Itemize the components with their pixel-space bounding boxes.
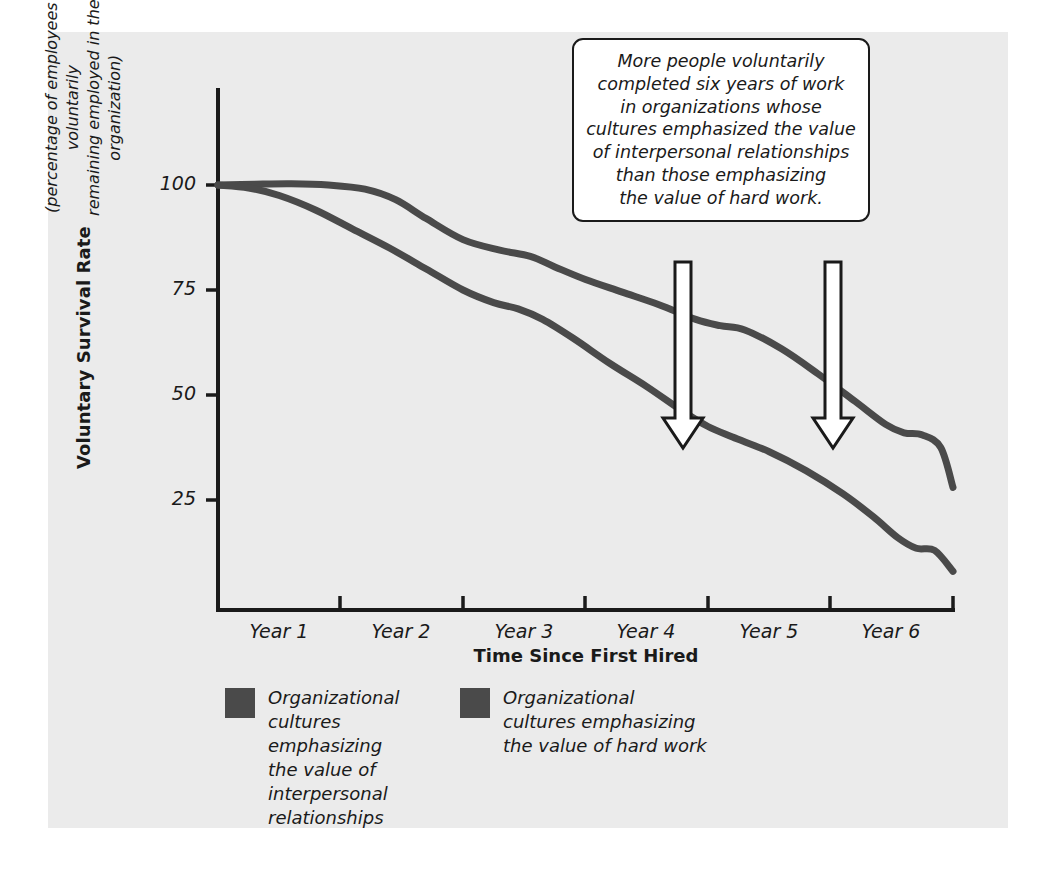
x-tick-label-year-4: Year 4 — [586, 620, 706, 642]
legend-swatch-hardwork — [460, 688, 490, 718]
legend-item-interpersonal: Organizational cultures emphasizing the … — [225, 686, 455, 830]
callout-arrow-left — [663, 262, 703, 448]
callout-arrow-right — [813, 262, 853, 448]
x-tick-label-year-6: Year 6 — [831, 620, 951, 642]
x-axis-title: Time Since First Hired — [386, 645, 786, 666]
callout-note: More people voluntarily completed six ye… — [572, 38, 870, 222]
y-tick-label-100: 100 — [136, 172, 196, 194]
callout-arrow-group — [663, 262, 853, 448]
series-line-hardwork — [218, 185, 953, 571]
legend-item-hardwork: Organizational cultures emphasizing the … — [460, 686, 710, 758]
y-tick-label-25: 25 — [136, 487, 196, 509]
x-tick-label-year-5: Year 5 — [709, 620, 829, 642]
x-tick-label-year-2: Year 2 — [341, 620, 461, 642]
y-tick-label-75: 75 — [136, 277, 196, 299]
series-line-interpersonal — [218, 184, 953, 488]
x-tick-label-year-3: Year 3 — [464, 620, 584, 642]
x-tick-label-year-1: Year 1 — [219, 620, 339, 642]
figure-container: Voluntary Survival Rate (percentage of e… — [0, 0, 1052, 869]
y-tick-label-50: 50 — [136, 382, 196, 404]
legend-swatch-interpersonal — [225, 688, 255, 718]
legend-label-interpersonal: Organizational cultures emphasizing the … — [268, 686, 455, 830]
legend-label-hardwork: Organizational cultures emphasizing the … — [503, 686, 707, 758]
x-axis-tick-marks — [340, 596, 953, 610]
